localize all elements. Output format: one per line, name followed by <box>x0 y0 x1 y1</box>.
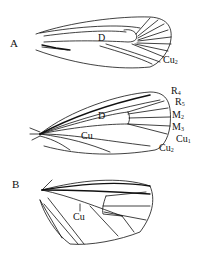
wing-b-hindwing <box>40 180 153 244</box>
label-cu2-a2: Cu2 <box>159 143 174 155</box>
label-cu2-a1: Cu2 <box>163 55 178 67</box>
label-cu-b: Cu <box>73 212 85 222</box>
panel-label-b: B <box>12 178 19 190</box>
panel-label-a: A <box>10 37 18 49</box>
label-discal-cell-a1: D <box>98 33 105 43</box>
label-cu1: Cu1 <box>176 134 191 146</box>
label-cu-a2: Cu <box>81 131 93 141</box>
label-r5: R5 <box>175 97 185 109</box>
wing-a-lower <box>30 92 170 154</box>
label-discal-cell-a2: D <box>98 111 105 121</box>
